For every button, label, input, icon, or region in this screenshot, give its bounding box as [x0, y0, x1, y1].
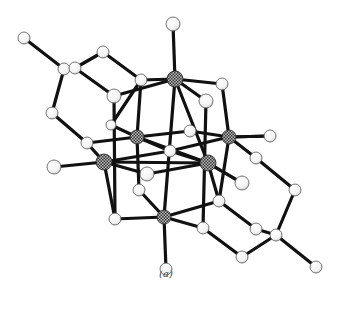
bond-M6-A27	[164, 217, 166, 269]
bond-A24-A26	[276, 235, 316, 267]
atom-A12	[164, 145, 176, 157]
atom-A19	[213, 195, 225, 207]
atom-T1	[166, 17, 180, 31]
atom-A13	[264, 130, 276, 142]
atom-A11	[184, 125, 196, 137]
atom-T2	[18, 32, 30, 44]
metal-atom-M5	[200, 155, 216, 171]
bond-A14-A20	[256, 158, 295, 190]
atom-A18	[133, 184, 145, 196]
bond-A9-M2	[87, 137, 137, 143]
atom-A3	[97, 46, 109, 58]
atom-A10	[106, 120, 116, 130]
bond-A19-A23	[219, 201, 256, 229]
metal-atom-M3	[222, 130, 236, 144]
atom-A16	[140, 167, 154, 181]
atom-A14	[250, 152, 262, 164]
metal-atom-M4	[96, 154, 112, 170]
bond-A1-A8	[52, 69, 64, 113]
bond-M6-A19	[164, 201, 219, 217]
atom-A24	[270, 229, 282, 241]
bond-A6-M3	[222, 84, 229, 137]
atom-A2	[69, 62, 81, 74]
atom-A23	[250, 223, 262, 235]
atom-A21	[109, 213, 121, 225]
atom-A9	[81, 137, 93, 149]
bond-M2-A11	[137, 131, 190, 137]
bond-T2-A1	[24, 38, 64, 69]
atom-A15	[47, 160, 61, 174]
bond-A5-A21	[114, 96, 115, 219]
atom-A22	[197, 222, 209, 234]
metal-atom-M1	[167, 71, 183, 87]
bond-A8-A9	[52, 113, 87, 143]
bond-M2-A18	[137, 137, 139, 190]
bond-A3-A4	[103, 52, 141, 80]
atom-A17	[235, 176, 249, 190]
atom-A5	[107, 89, 121, 103]
atom-A25	[236, 251, 248, 263]
figure-caption: (a)	[0, 268, 342, 279]
caption-label: (a)	[159, 268, 173, 279]
atoms-layer	[18, 17, 322, 275]
molecular-structure-diagram	[0, 0, 342, 312]
metal-atom-M6	[157, 210, 171, 224]
metal-atom-M2	[130, 130, 144, 144]
bond-A22-A25	[203, 228, 242, 257]
bond-M4-M5	[104, 162, 208, 163]
bond-A20-A24	[276, 190, 295, 235]
atom-A20	[289, 184, 301, 196]
atom-A8	[46, 107, 58, 119]
atom-A1	[58, 63, 70, 75]
atom-A6	[216, 78, 228, 90]
bond-A16-M5	[147, 163, 208, 174]
atom-A7	[199, 94, 213, 108]
atom-A4	[135, 74, 147, 86]
